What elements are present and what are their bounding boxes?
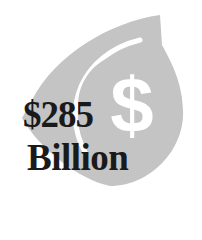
amount-unit: Billion [27,139,128,176]
amount-value: $285 [23,96,93,133]
dollar-sign-icon: $ [110,61,153,149]
svg-text:$: $ [110,61,153,149]
